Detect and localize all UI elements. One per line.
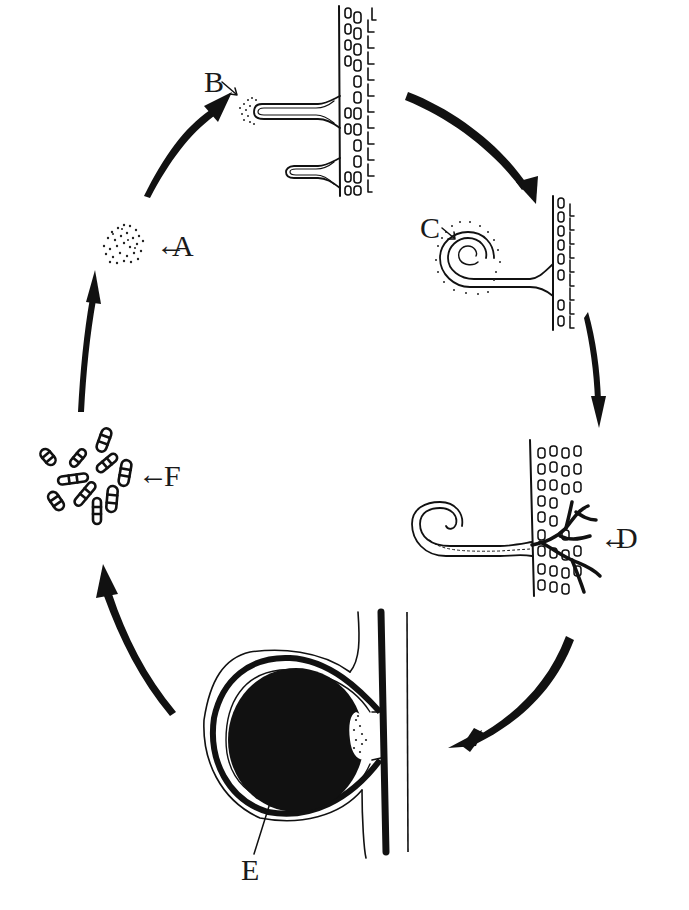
label-c-group: C (420, 211, 455, 244)
cycle-arrow-a-to-b (144, 92, 232, 198)
stage-f-spores (38, 427, 132, 524)
label-d: D (616, 521, 638, 554)
stage-e-dark-sphere (228, 668, 364, 812)
label-a: A (172, 229, 194, 262)
stage-c-coiled-outgrowth (435, 221, 553, 296)
label-f-group: ← F (138, 457, 181, 492)
life-cycle-diagram: ← A B (0, 0, 689, 910)
cycle-arrow-f-to-a (78, 270, 101, 412)
label-c: C (420, 211, 440, 244)
label-a-group: ← A (156, 228, 194, 262)
stage-b-tissue (339, 6, 376, 196)
label-f: F (164, 459, 181, 492)
stage-a-spore-mass (103, 224, 144, 264)
label-e: E (241, 853, 259, 886)
stage-c-tissue (553, 196, 574, 330)
label-d-group: ← D (600, 521, 638, 554)
label-b: B (204, 65, 224, 98)
cycle-arrow-d-to-e (448, 636, 574, 752)
stage-e-body (204, 650, 381, 820)
label-b-group: B (204, 65, 237, 98)
stage-d-outgrowth (412, 502, 532, 556)
cycle-arrow-e-to-f (96, 564, 176, 716)
cycle-arrow-c-to-d (584, 312, 606, 428)
stage-b-outgrowths (239, 96, 340, 188)
cycle-arrow-b-to-c (405, 92, 538, 204)
diagram-svg: ← A B (0, 0, 689, 910)
label-b-pointer-icon (222, 82, 236, 94)
